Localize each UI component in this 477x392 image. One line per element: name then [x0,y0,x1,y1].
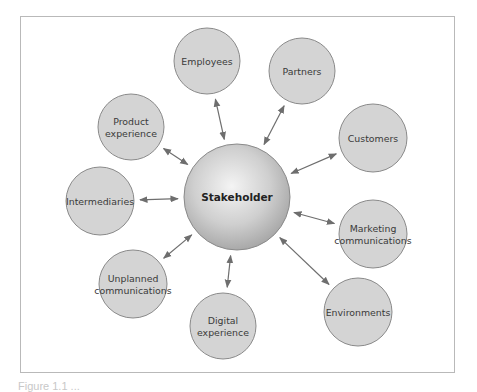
arrow-customers [291,154,336,174]
node-employees: Employees [174,28,240,94]
node-label: Digital [208,315,238,326]
node-product-experience: Productexperience [98,94,164,160]
node-unplanned-communications: Unplannedcommunications [94,250,172,318]
node-environments: Environments [324,278,392,346]
arrow-partners [264,106,284,145]
arrow-product-experience [164,148,188,164]
node-label: Marketing [350,223,397,234]
node-label: Employees [181,56,232,67]
arrow-marketing-communications [294,212,334,223]
node-label: Customers [348,133,399,144]
node-label: Intermediaries [66,196,134,207]
node-marketing-communications: Marketingcommunications [334,200,412,268]
node-label: communications [334,235,412,246]
node-partners: Partners [269,38,335,104]
node-label: Environments [326,307,391,318]
arrow-employees [215,99,224,139]
center-label: Stakeholder [201,191,273,203]
arrow-unplanned-communications [164,235,192,258]
node-label: experience [197,327,249,338]
arrow-digital-experience [227,256,230,288]
node-label: Partners [283,66,322,77]
figure-caption: Figure 1.1 ... [18,380,80,392]
arrow-environments [280,238,329,285]
node-label: Unplanned [108,273,159,284]
node-digital-experience: Digitalexperience [190,293,256,359]
node-label: communications [94,285,172,296]
arrow-intermediaries [140,199,178,200]
node-customers: Customers [339,104,407,172]
node-label: Product [113,116,149,127]
node-label: experience [105,128,157,139]
node-intermediaries: Intermediaries [66,167,134,235]
center-node: Stakeholder [184,144,290,250]
